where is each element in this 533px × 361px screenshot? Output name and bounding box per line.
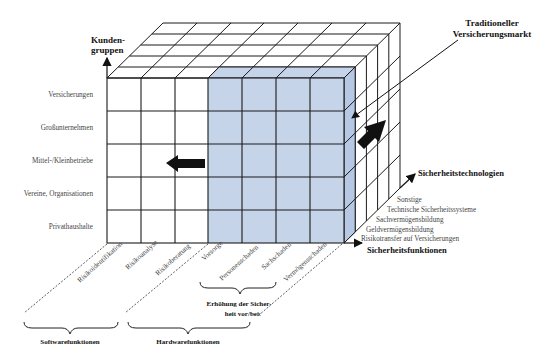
depth-label: Sonstige: [397, 196, 422, 204]
row-label: Mittel-/Kleinbetriebe: [32, 157, 93, 165]
increase-label-1: Erhöhung der Sicher-: [207, 300, 273, 308]
depth-axis: [400, 174, 415, 188]
y-axis-title-2: gruppen: [91, 45, 124, 55]
row-labels: Versicherungen Großunternehmen Mittel-/K…: [24, 91, 94, 231]
column-labels: Risikoidentifikation Risikoanalyse Risik…: [76, 239, 329, 285]
annotation-pointer: [352, 40, 458, 118]
depth-labels: Sonstige Technische Sicherheitssysteme S…: [361, 196, 476, 243]
braces: [24, 282, 276, 334]
annotation-line1: Traditioneller: [465, 18, 518, 28]
column-label: Risikoidentifikation: [76, 240, 124, 285]
depth-label: Geldvermögensbildung: [366, 226, 434, 234]
column-label: Sachschaden: [260, 240, 293, 271]
increase-label-2: heit vor/bei:: [225, 310, 261, 318]
row-label: Privathaushalte: [49, 223, 93, 231]
row-label: Versicherungen: [48, 91, 93, 99]
arrow-up-right-icon: [357, 120, 386, 149]
row-label: Vereine, Organisationen: [24, 190, 94, 198]
column-label: Risikoberatung: [154, 242, 192, 278]
depth-label: Sachvermögensbildung: [376, 216, 444, 224]
column-label: Personenschaden: [218, 243, 260, 282]
hardware-functions-label: Hardwarefunktionen: [156, 338, 219, 346]
annotation-line2: Versicherungsmarkt: [453, 29, 532, 39]
software-functions-label: Softwarefunktionen: [40, 338, 99, 346]
row-label: Großunternehmen: [41, 124, 94, 132]
traditional-insurance-block: [208, 67, 355, 243]
depth-axis-title: Sicherheitstechnologien: [418, 168, 504, 178]
depth-label: Technische Sicherheitssysteme: [387, 206, 476, 214]
x-axis-title: Sicherheitsfunktionen: [367, 245, 447, 255]
arrow-left-icon: [166, 155, 205, 172]
y-axis-title-1: Kunden-: [91, 35, 125, 45]
cube-diagram: Kunden- gruppen Traditioneller Versicher…: [0, 0, 533, 361]
depth-label: Risikotransfer auf Versicherungen: [361, 235, 459, 243]
